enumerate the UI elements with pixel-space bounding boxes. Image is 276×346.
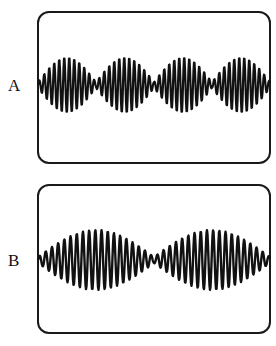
beat-waveform-b (38, 230, 270, 290)
waveform-traces (0, 0, 276, 346)
beat-waveform-a (38, 58, 270, 111)
